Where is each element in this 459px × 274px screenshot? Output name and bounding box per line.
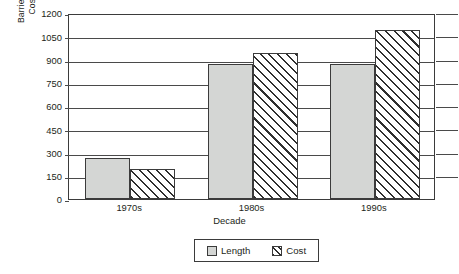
x-tick-label-1970s: 1970s — [89, 203, 169, 213]
bar-1970s-cost — [130, 169, 175, 199]
chart-legend: Length Cost — [194, 239, 319, 262]
y-tick-label: 900 — [18, 56, 62, 65]
gridline-overhang — [436, 107, 458, 108]
legend-swatch-length-icon — [207, 246, 217, 256]
y-tick-mark — [65, 155, 69, 156]
legend-label-length: Length — [221, 246, 250, 256]
y-tick-mark — [65, 15, 69, 16]
bar-1980s-length — [208, 64, 253, 199]
x-tick-label-1990s: 1990s — [334, 203, 414, 213]
y-tick-mark — [65, 62, 69, 63]
y-tick-label: 0 — [18, 195, 62, 204]
plot-area — [68, 14, 435, 200]
gridline-overhang — [436, 14, 458, 15]
gridline-overhang — [436, 177, 458, 178]
y-tick-mark — [65, 85, 69, 86]
legend-swatch-cost-icon — [272, 246, 282, 256]
y-tick-label: 1200 — [18, 9, 62, 18]
gridline-overhang — [436, 130, 458, 131]
legend-entry-cost: Cost — [272, 246, 306, 256]
y-tick-mark — [65, 131, 69, 132]
bar-1990s-cost — [375, 30, 420, 199]
y-tick-label: 1050 — [18, 33, 62, 42]
x-axis-title: Decade — [0, 216, 459, 226]
bar-1990s-length — [330, 64, 375, 199]
x-tick-label-1980s: 1980s — [212, 203, 292, 213]
bar-1980s-cost — [253, 53, 298, 199]
gridline-overhang — [436, 84, 458, 85]
gridline-overhang — [436, 37, 458, 38]
legend-label-cost: Cost — [286, 246, 306, 256]
gridline-overhang — [436, 154, 458, 155]
y-tick-mark — [65, 38, 69, 39]
gridline-overhang — [436, 61, 458, 62]
y-tick-mark — [65, 201, 69, 202]
legend-entry-length: Length — [207, 246, 250, 256]
y-tick-label: 450 — [18, 126, 62, 135]
y-tick-label: 150 — [18, 172, 62, 181]
bar-1970s-length — [85, 158, 130, 199]
y-tick-mark — [65, 178, 69, 179]
y-tick-label: 750 — [18, 79, 62, 88]
y-tick-label: 300 — [18, 149, 62, 158]
bar-chart-figure: Barrier Length (km) Cost (million $) 197… — [0, 0, 459, 274]
y-tick-mark — [65, 108, 69, 109]
y-tick-label: 600 — [18, 102, 62, 111]
